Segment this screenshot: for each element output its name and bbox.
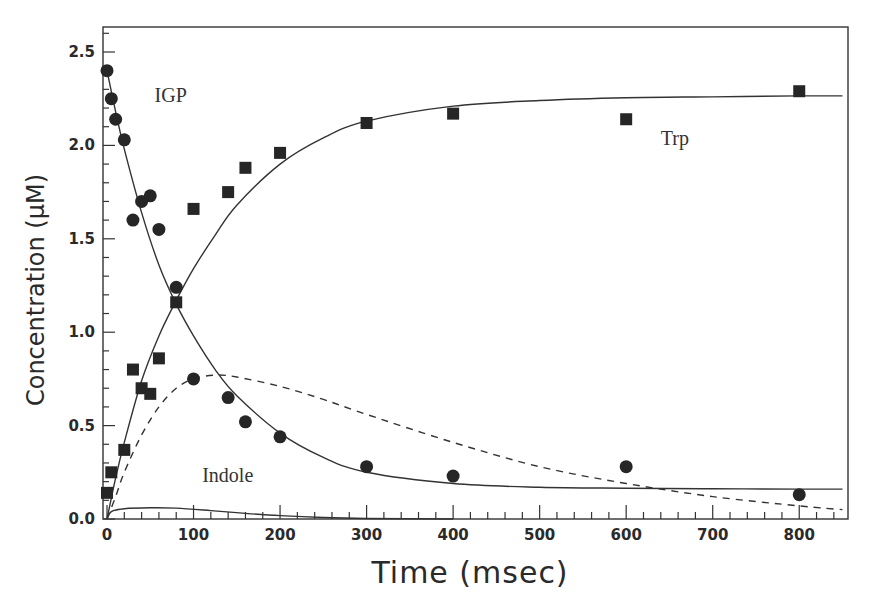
annotations: IGPTrpIndole <box>155 84 689 485</box>
trp-data-point <box>144 388 156 400</box>
trp-data-point <box>361 117 373 129</box>
fit-curves <box>107 71 843 519</box>
y-tick-label: 0.5 <box>68 417 95 435</box>
igp-data-point <box>105 92 118 105</box>
igp-data-point <box>360 460 373 473</box>
trp-data-point <box>447 108 459 120</box>
trp-data-point <box>274 147 286 159</box>
series-line-trp-fit <box>107 96 843 519</box>
igp-data-point <box>118 133 131 146</box>
plot-border <box>103 27 848 519</box>
igp-data-point <box>126 214 139 227</box>
trp-data-point <box>793 85 805 97</box>
series-line-igp-fit <box>107 71 843 489</box>
x-tick-label: 100 <box>178 526 209 544</box>
annotation-indole: Indole <box>202 464 253 486</box>
x-tick-label: 600 <box>611 526 642 544</box>
y-axis: 0.00.51.01.52.02.5 <box>68 33 115 528</box>
concentration-time-chart: 0100200300400500600700800 0.00.51.01.52.… <box>0 0 870 603</box>
trp-data-point <box>239 162 251 174</box>
x-tick-label: 0 <box>102 526 112 544</box>
igp-data-point <box>109 113 122 126</box>
trp-data-point <box>153 352 165 364</box>
igp-data-point <box>101 64 114 77</box>
igp-data-point <box>620 460 633 473</box>
trp-data-point <box>127 364 139 376</box>
y-tick-label: 0.0 <box>68 510 95 528</box>
igp-data-point <box>170 281 183 294</box>
annotation-trp: Trp <box>661 127 689 150</box>
x-tick-label: 200 <box>264 526 295 544</box>
igp-data-point <box>274 430 287 443</box>
igp-data-point <box>447 470 460 483</box>
trp-data-point <box>170 296 182 308</box>
trp-data-point <box>105 466 117 478</box>
x-tick-label: 400 <box>437 526 468 544</box>
trp-data-point <box>101 487 113 499</box>
y-tick-label: 1.5 <box>68 230 95 248</box>
igp-data-point <box>222 391 235 404</box>
annotation-igp: IGP <box>155 84 187 106</box>
series-line-indole-dashed-fit <box>107 375 843 519</box>
igp-data-point <box>793 488 806 501</box>
x-tick-label: 800 <box>784 526 815 544</box>
trp-data-point <box>188 203 200 215</box>
y-tick-label: 1.0 <box>68 323 95 341</box>
igp-data-point <box>239 415 252 428</box>
y-axis-title: Concentration (µM) <box>22 174 50 406</box>
y-tick-label: 2.0 <box>68 136 95 154</box>
x-axis-title: Time (msec) <box>370 555 568 590</box>
data-points <box>101 64 806 501</box>
trp-data-point <box>222 186 234 198</box>
y-tick-label: 2.5 <box>68 43 95 61</box>
x-tick-label: 700 <box>697 526 728 544</box>
igp-data-point <box>187 372 200 385</box>
igp-data-point <box>144 189 157 202</box>
x-tick-label: 500 <box>524 526 555 544</box>
x-tick-label: 300 <box>351 526 382 544</box>
trp-data-point <box>118 444 130 456</box>
plot-frame <box>103 27 848 519</box>
igp-data-point <box>152 223 165 236</box>
trp-data-point <box>620 113 632 125</box>
